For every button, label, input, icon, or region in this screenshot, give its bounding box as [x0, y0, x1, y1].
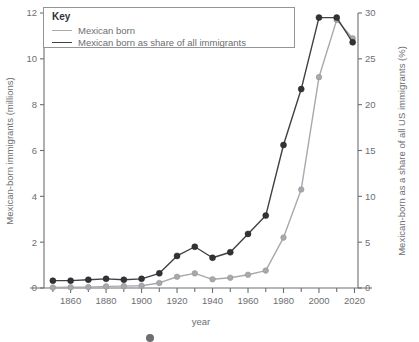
data-point: [192, 271, 198, 277]
data-point: [245, 231, 251, 237]
legend-item-mexican-born: Mexican born: [52, 24, 294, 36]
data-point: [139, 276, 145, 282]
left-axis-ticks: 024681012: [26, 7, 44, 293]
x-tick-label: 2000: [308, 295, 329, 306]
data-series-layer: [50, 15, 356, 291]
left-tick-label: 6: [32, 145, 37, 156]
right-tick-label: 0: [365, 282, 370, 293]
data-point: [157, 280, 163, 286]
legend-swatch-light-icon: [52, 30, 72, 31]
right-axis-title: Mexican-born as a share of all US immigr…: [396, 46, 407, 256]
data-point: [245, 272, 251, 278]
x-tick-label: 1900: [131, 295, 152, 306]
legend-title: Key: [52, 11, 294, 23]
left-tick-label: 0: [32, 282, 37, 293]
right-tick-label: 20: [365, 99, 376, 110]
axes-group: [30, 13, 372, 288]
right-tick-label: 30: [365, 7, 376, 18]
data-point: [174, 253, 180, 259]
left-tick-label: 12: [26, 7, 37, 18]
data-point: [103, 276, 109, 282]
data-point: [68, 278, 74, 284]
data-point: [50, 278, 56, 284]
legend-item-share: Mexican born as share of all immigrants: [52, 36, 294, 48]
x-tick-label: 2020: [344, 295, 365, 306]
data-point: [263, 213, 269, 219]
data-point: [210, 276, 216, 282]
data-point: [86, 284, 92, 290]
x-tick-label: 1940: [202, 295, 223, 306]
right-tick-label: 25: [365, 53, 376, 64]
x-tick-label: 1920: [166, 295, 187, 306]
x-tick-label: 1980: [273, 295, 294, 306]
data-point: [103, 284, 109, 290]
chart-container: 024681012 051015202530 18601880190019201…: [0, 0, 419, 342]
x-axis-ticks: 186018801900192019401960198020002020: [53, 288, 365, 306]
x-axis-title: year: [192, 316, 210, 327]
left-axis-title: Mexican-born immigrants (millions): [4, 77, 15, 224]
right-tick-label: 10: [365, 191, 376, 202]
data-point: [210, 255, 216, 261]
figure-footer-stub: [146, 334, 286, 342]
data-point: [227, 249, 233, 255]
legend-label-mexican-born: Mexican born: [78, 25, 135, 36]
x-tick-label: 1860: [60, 295, 81, 306]
data-point: [156, 270, 162, 276]
data-point: [50, 285, 56, 291]
left-tick-label: 10: [26, 53, 37, 64]
data-point: [121, 277, 127, 283]
data-point: [121, 283, 127, 289]
left-tick-label: 8: [32, 99, 37, 110]
chart-legend: Key Mexican born Mexican born as share o…: [43, 7, 295, 48]
left-tick-label: 2: [32, 237, 37, 248]
data-point: [334, 15, 340, 21]
data-point: [68, 285, 74, 291]
series-line-mexican-born: [53, 20, 353, 288]
data-point: [350, 39, 356, 45]
data-point: [85, 277, 91, 283]
line-chart-svg: 024681012 051015202530 18601880190019201…: [0, 0, 419, 342]
right-tick-label: 15: [365, 145, 376, 156]
legend-label-share: Mexican born as share of all immigrants: [78, 37, 246, 48]
data-point: [298, 86, 304, 92]
footer-dot-icon: [146, 334, 154, 342]
data-point: [316, 74, 322, 80]
data-point: [227, 275, 233, 281]
left-tick-label: 4: [32, 191, 37, 202]
right-tick-label: 5: [365, 237, 370, 248]
data-point: [316, 15, 322, 21]
data-point: [139, 283, 145, 289]
data-point: [280, 142, 286, 148]
data-point: [263, 268, 269, 274]
data-point: [174, 274, 180, 280]
data-point: [281, 235, 287, 241]
data-point: [298, 187, 304, 193]
legend-swatch-dark-icon: [52, 42, 72, 43]
x-tick-label: 1880: [96, 295, 117, 306]
right-axis-ticks: 051015202530: [358, 7, 376, 293]
data-point: [192, 244, 198, 250]
x-tick-label: 1960: [237, 295, 258, 306]
